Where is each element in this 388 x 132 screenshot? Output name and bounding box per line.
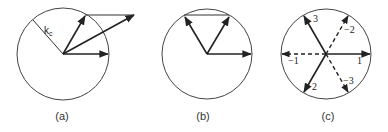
wave-vector-up-left	[185, 17, 207, 54]
panel-c: 1 −1 2 −2 3 −3	[281, 9, 371, 99]
label-neg-1: −1	[288, 55, 299, 66]
label-neg-3: −3	[343, 75, 354, 86]
radius-label: kc	[44, 25, 53, 37]
vector-neg-2	[326, 16, 348, 54]
caption-c: (c)	[313, 110, 343, 122]
panel-b	[162, 9, 252, 99]
label-neg-2: −2	[344, 24, 355, 35]
label-2: 2	[312, 81, 317, 92]
caption-b: (b)	[188, 110, 218, 122]
label-1: 1	[357, 55, 362, 66]
vector-neg-3	[326, 54, 348, 92]
caption-a: (a)	[47, 110, 77, 122]
wave-vector-up-right	[207, 17, 229, 54]
label-3: 3	[313, 13, 318, 24]
panel-a: kc	[17, 8, 134, 100]
